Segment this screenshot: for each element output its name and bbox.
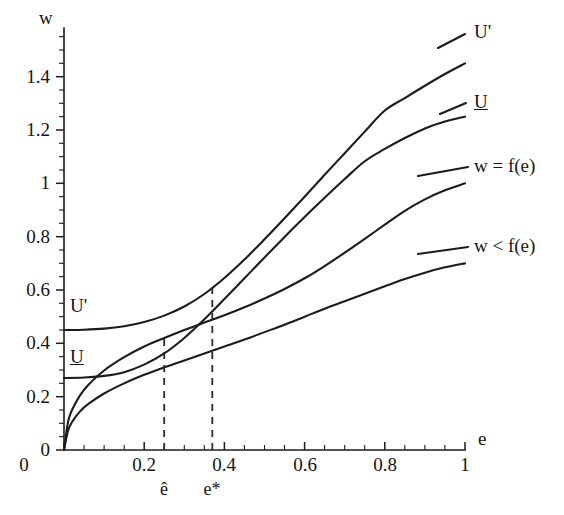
y-tick-label-0.2: 0.2 — [8, 387, 50, 406]
y-tick-label-1.2: 1.2 — [8, 120, 50, 139]
x-tick-label-0.4: 0.4 — [202, 455, 246, 474]
x-tick-label-0.6: 0.6 — [283, 455, 327, 474]
left-label-u-prime: U' — [70, 296, 87, 315]
curve-u — [64, 63, 465, 330]
x-tick-label-0.2: 0.2 — [122, 455, 166, 474]
x-tick-label-0.8: 0.8 — [363, 455, 407, 474]
y-tick-label-1: 1 — [8, 173, 50, 192]
curve-group — [64, 63, 465, 450]
curve-u — [64, 117, 465, 378]
y-axis-title: w — [39, 8, 53, 27]
y-tick-label-0.4: 0.4 — [8, 333, 50, 352]
e-star-label: e* — [192, 480, 232, 498]
leader-w-lt — [418, 247, 468, 254]
y-tick-label-0.6: 0.6 — [8, 280, 50, 299]
x-tick-label-1: 1 — [443, 455, 487, 474]
right-label-w-equals-f-e: w = f(e) — [474, 156, 535, 175]
y-tick-label-0.8: 0.8 — [8, 227, 50, 246]
right-label-u-prime: U' — [474, 22, 491, 41]
right-label-w-less-than-f-e: w < f(e) — [474, 236, 535, 255]
efficiency-wage-chart: w e 1.4 1.2 1 0.8 0.6 0.4 0.2 0 0 0.2 0.… — [0, 0, 564, 515]
leader-u — [440, 103, 466, 114]
x-tick-label-0: 0 — [2, 455, 46, 474]
x-axis-title: e — [478, 429, 486, 448]
y-tick-label-1.4: 1.4 — [8, 67, 50, 86]
right-label-u: U — [474, 92, 488, 111]
curve-w-f-e — [64, 183, 465, 450]
e-hat-label: ê — [144, 480, 184, 498]
leader-u-prime — [438, 34, 465, 48]
leader-w-eq — [418, 167, 468, 176]
left-label-u: U — [70, 347, 84, 366]
